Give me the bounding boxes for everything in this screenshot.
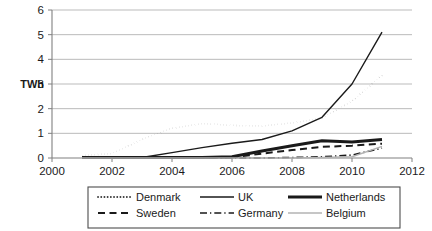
y-tick-label: 2 [38, 103, 44, 115]
chart-legend: DenmarkUKNetherlandsSwedenGermanyBelgium [88, 187, 400, 228]
x-tick-label: 2008 [279, 165, 305, 177]
y-tick-label: 1 [38, 127, 44, 139]
legend-label-belgium: Belgium [326, 207, 366, 219]
y-axis-label: TWh [20, 78, 44, 90]
x-tick-label: 2002 [99, 165, 125, 177]
x-tick-labels: 2000200220042006200820102012 [39, 165, 425, 177]
series-line-netherlands [82, 140, 382, 158]
y-axis [48, 10, 52, 158]
series-lines [82, 32, 382, 158]
gridlines [52, 10, 412, 133]
legend-label-uk: UK [238, 191, 254, 203]
legend-label-germany: Germany [238, 207, 284, 219]
x-tick-label: 2010 [339, 165, 365, 177]
legend-label-sweden: Sweden [136, 207, 176, 219]
legend-label-netherlands: Netherlands [326, 191, 386, 203]
y-tick-label: 4 [38, 53, 45, 65]
x-tick-label: 2000 [39, 165, 65, 177]
series-line-uk [82, 32, 382, 158]
x-tick-label: 2012 [399, 165, 425, 177]
x-tick-label: 2006 [219, 165, 245, 177]
y-tick-label: 6 [38, 4, 44, 16]
line-chart: 0123456 2000200220042006200820102012 TWh… [0, 0, 432, 231]
x-tick-label: 2004 [159, 165, 185, 177]
chart-canvas: 0123456 2000200220042006200820102012 TWh… [0, 0, 432, 231]
legend-label-denmark: Denmark [136, 191, 181, 203]
y-tick-label: 5 [38, 29, 44, 41]
y-tick-label: 0 [38, 152, 44, 164]
